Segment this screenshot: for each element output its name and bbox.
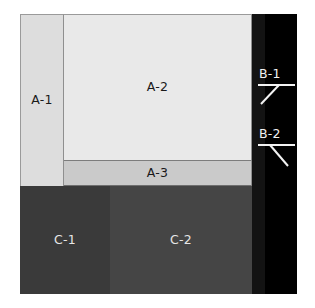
region-a2-label: A-2 [147,81,168,94]
region-a1[interactable]: A-1 [20,14,64,186]
diagram-canvas: A-1 A-2 A-3 C-1 C-2 B-1 B-2 [0,0,315,308]
region-c2-label: C-2 [170,234,192,247]
region-c1-label: C-1 [54,234,76,247]
region-c1[interactable]: C-1 [20,186,110,294]
region-b1[interactable] [252,14,265,294]
region-b2[interactable] [265,14,297,294]
region-a1-label: A-1 [31,94,52,107]
region-c2[interactable]: C-2 [110,186,252,294]
region-a3-label: A-3 [147,167,168,180]
region-a2[interactable]: A-2 [64,14,252,161]
region-a3[interactable]: A-3 [64,161,252,186]
